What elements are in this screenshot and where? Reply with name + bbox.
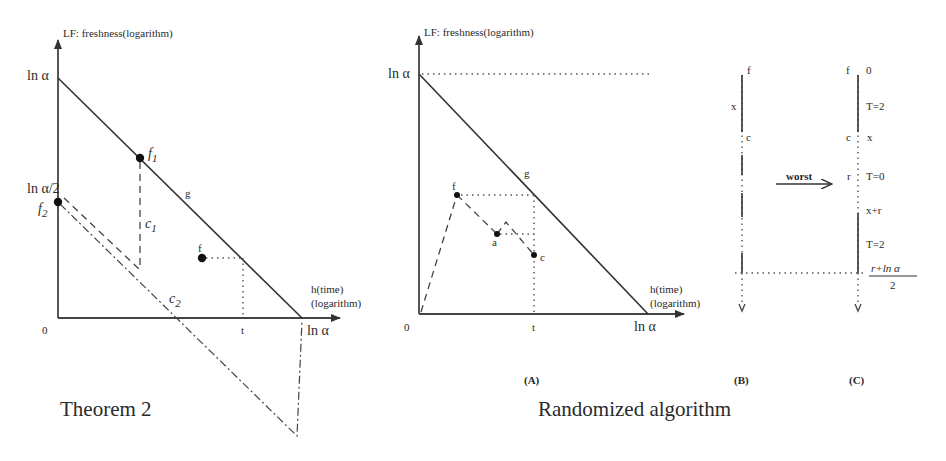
origin-to-f-dashed-line — [421, 195, 457, 312]
c-f-label: f — [846, 64, 850, 76]
f-to-a-dashed-line — [457, 195, 497, 234]
y-tick-ln-alpha-half: ln α/2 — [27, 181, 60, 196]
c-t0-label: T=0 — [866, 170, 885, 182]
c-x-label: x — [867, 131, 873, 143]
worst-case-arrow: worst — [776, 170, 832, 184]
sub-caption-b: (B) — [734, 374, 749, 387]
theorem-2-diagram: LF: freshness(logarithm) ln α ln α/2 f2 … — [27, 27, 361, 436]
f2-point — [54, 198, 62, 206]
c-xr-label: x+r — [866, 204, 882, 216]
fraction-numerator: r+ln α — [871, 262, 900, 274]
f-point — [198, 254, 206, 262]
b-f-label: f — [747, 64, 751, 76]
down-arrow-icon — [855, 304, 861, 311]
c-t2-top-label: T=2 — [866, 100, 884, 112]
sub-caption-c: (C) — [849, 374, 865, 387]
c-r-label: r — [847, 170, 851, 182]
t-label: t — [241, 324, 244, 336]
g-line — [58, 78, 302, 318]
c1-label: c1 — [145, 216, 157, 234]
randomized-algorithm-caption: Randomized algorithm — [538, 397, 731, 421]
f2-label: f2 — [38, 201, 48, 219]
sub-caption-a: (A) — [524, 374, 540, 387]
b-x-label: x — [731, 100, 737, 112]
c-zero-label: 0 — [866, 64, 872, 76]
c1-slope-dashed-line — [64, 198, 140, 270]
x-axis-label-time: h(time) — [311, 283, 344, 296]
x-tick-ln-alpha: ln α — [307, 323, 329, 338]
origin-label: 0 — [404, 321, 410, 333]
c-label: c — [540, 251, 545, 263]
f1-label: f1 — [148, 146, 157, 164]
c-point — [531, 252, 537, 258]
f-label: f — [452, 180, 456, 192]
x-tick-ln-alpha: ln α — [634, 319, 656, 334]
y-axis-label: LF: freshness(logarithm) — [63, 27, 173, 40]
g-label: g — [185, 187, 191, 199]
origin-label: 0 — [42, 324, 48, 336]
t-label: t — [532, 321, 535, 333]
a-to-c-dashed-line — [497, 222, 534, 255]
x-axis-label-log: (logarithm) — [650, 297, 700, 310]
y-axis-label: LF: freshness(logarithm) — [424, 26, 534, 39]
y-tick-ln-alpha: ln α — [27, 68, 49, 83]
f1-point — [136, 154, 144, 162]
x-axis-label-time: h(time) — [650, 283, 683, 296]
timeline-b: f x c (B) — [731, 64, 751, 387]
y-tick-ln-alpha: ln α — [388, 66, 410, 81]
down-arrow-icon — [739, 304, 745, 311]
fraction-denominator: 2 — [890, 279, 896, 291]
c-c-label: c — [846, 131, 851, 143]
f-point — [454, 192, 460, 198]
worst-label: worst — [786, 170, 813, 182]
b-c-label: c — [746, 131, 751, 143]
x-axis-label-log: (logarithm) — [311, 297, 361, 310]
timeline-c: f 0 T=2 c x r T=0 x+r T=2 r+ln α 2 (C) — [846, 64, 917, 387]
figure: LF: freshness(logarithm) ln α ln α/2 f2 … — [0, 0, 946, 461]
randomized-algorithm-diagram-a: LF: freshness(logarithm) ln α g f a c 0 … — [388, 26, 731, 421]
c2-label: c2 — [169, 291, 181, 309]
theorem-2-caption: Theorem 2 — [60, 397, 152, 421]
a-label: a — [492, 236, 497, 248]
g-label: g — [524, 167, 530, 179]
f-label: f — [198, 242, 202, 254]
c-t2-bottom-label: T=2 — [866, 238, 884, 250]
